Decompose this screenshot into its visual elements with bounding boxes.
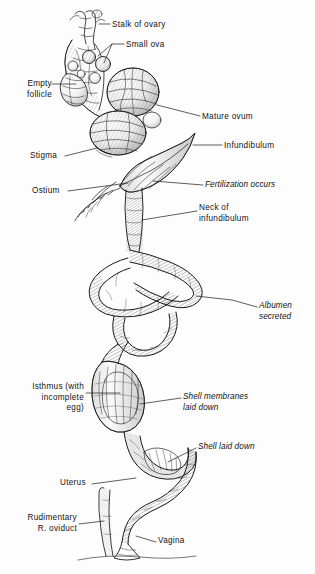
ovum-small-right (143, 112, 161, 128)
ovary-stalk (70, 10, 105, 49)
leader-ostium (68, 183, 128, 191)
label-stalk-of-ovary: Stalk of ovary (112, 20, 166, 31)
isthmus-shape (92, 361, 145, 432)
leader-neck (142, 211, 197, 220)
leader-mature-ovum (157, 105, 200, 116)
leader-shell-membranes (140, 398, 181, 404)
rudimentary-right-oviduct-shape (99, 488, 113, 557)
leader-fertilization (153, 181, 203, 185)
label-infundibulum: Infundibulum (224, 141, 274, 152)
label-mature-ovum: Mature ovum (202, 112, 253, 123)
label-vagina: Vagina (158, 536, 185, 547)
ovum-with-stigma (90, 111, 146, 157)
mature-ovum-shape (107, 68, 159, 116)
anatomical-figure: Stalk of ovary Small ova Empty follicle … (0, 0, 315, 574)
leader-albumen (196, 296, 257, 307)
magnum-coils (89, 250, 202, 356)
label-shell-membranes: Shell membranes laid down (183, 392, 248, 413)
label-rudimentary-oviduct: Rudimentary R. oviduct (0, 513, 77, 534)
leader-uterus (92, 478, 136, 484)
label-ostium: Ostium (32, 186, 60, 197)
leader-stigma (65, 148, 97, 156)
label-small-ova: Small ova (126, 40, 164, 51)
magnum-isthmus-junction (102, 342, 128, 364)
neck-of-infundibulum-shape (125, 188, 143, 252)
label-albumen-secreted: Albumen secreted (259, 301, 292, 322)
label-neck-of-infundibulum: Neck of infundibulum (199, 203, 249, 224)
label-stigma: Stigma (30, 151, 57, 162)
label-fertilization-occurs: Fertilization occurs (205, 180, 275, 191)
leader-vagina (136, 536, 156, 542)
label-shell-laid-down: Shell laid down (198, 442, 255, 453)
label-empty-follicle: Empty follicle (0, 79, 52, 100)
label-uterus: Uterus (60, 478, 86, 489)
label-isthmus: Isthmus (with incomplete egg) (0, 382, 84, 414)
